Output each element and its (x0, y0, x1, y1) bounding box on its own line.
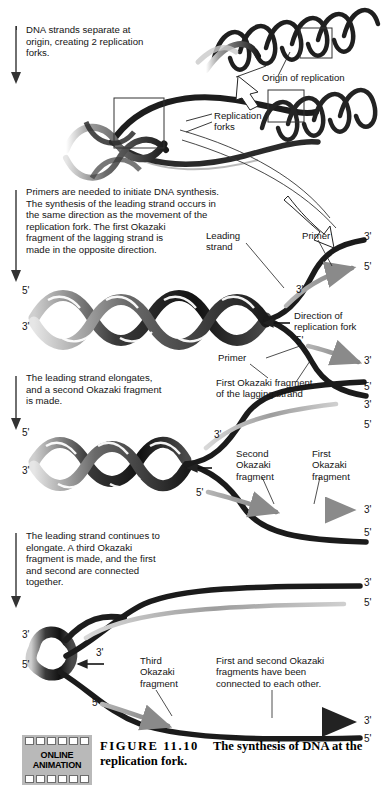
tick-p4-left-5: 5' (22, 660, 29, 670)
tick-p3-mid-3: 3' (214, 430, 221, 440)
step-text-3: The leading strand elongates, and a seco… (26, 372, 206, 407)
badge-line-1: ONLINE (33, 750, 82, 760)
tick-p2-left-5: 5' (22, 286, 29, 296)
figure-title-line2: replication fork. (100, 754, 187, 768)
label-second-okazaki-fragment: Second Okazaki fragment (236, 448, 274, 482)
tick-p2-bot-5: 5' (364, 382, 371, 392)
tick-p2-low-5: 5' (296, 336, 303, 346)
tick-p3-tr-3: 3' (364, 400, 371, 410)
tick-p3-bot-5: 5' (364, 528, 371, 538)
tick-p4-mid-3: 3' (96, 648, 103, 658)
tick-p4-frag-3: 3' (364, 716, 371, 726)
tick-p2-lr-3: 3' (364, 356, 371, 366)
tick-p2-left-3: 3' (22, 322, 29, 332)
tick-p4-left-3: 3' (22, 630, 29, 640)
step-text-4: The leading strand continues to elongate… (26, 530, 188, 588)
label-first-okazaki-lagging: First Okazaki fragment of the lagging st… (216, 377, 313, 400)
tick-p3-left-3: 3' (22, 466, 29, 476)
label-fragments-connected-note: First and second Okazaki fragments have … (216, 655, 324, 689)
label-leading-strand: Leading strand (206, 230, 240, 253)
tick-p2-fork-3: 3' (296, 285, 303, 295)
label-third-okazaki-fragment: Third Okazaki fragment (140, 655, 178, 689)
animation-badge-text: ONLINE ANIMATION (33, 750, 82, 770)
online-animation-badge[interactable]: ONLINE ANIMATION (22, 735, 92, 785)
figure-title: The synthesis of DNA at the (213, 739, 362, 753)
tick-p3-low-5: 5' (196, 488, 203, 498)
tick-p4-tr-3: 3' (364, 578, 371, 588)
label-direction-of-replication-fork: Direction of replication fork (294, 310, 356, 333)
label-primer-top: Primer (302, 230, 330, 241)
film-sprockets-top (25, 735, 89, 747)
step-rule-1 (16, 26, 17, 30)
tick-p3-tr-5: 5' (364, 420, 371, 430)
label-primer-bottom: Primer (218, 352, 246, 363)
step-arrow-2 (11, 190, 21, 282)
tick-p3-left-5: 5' (22, 428, 29, 438)
label-first-okazaki-fragment: First Okazaki fragment (312, 448, 350, 482)
caption-text: FIGURE 11.10The synthesis of DNA at the … (100, 739, 368, 769)
film-sprockets-bottom (25, 773, 89, 785)
step-text-1: DNA strands separate at origin, creating… (26, 24, 186, 59)
tick-p2-ur-5: 5' (364, 262, 371, 272)
label-replication-forks: Replication forks (214, 110, 261, 133)
figure-number: FIGURE 11.10 (100, 739, 199, 753)
tick-p4-low-5: 5' (92, 698, 99, 708)
step-arrow-3 (11, 376, 21, 430)
label-origin-of-replication: Origin of replication (262, 72, 345, 83)
figure-caption: ONLINE ANIMATION FIGURE 11.10The synthes… (16, 733, 371, 789)
step-arrow-1 (11, 26, 21, 84)
step-arrow-4 (11, 533, 21, 608)
badge-line-2: ANIMATION (33, 760, 82, 770)
dna-replication-figure: DNA strands separate at origin, creating… (0, 0, 381, 800)
tick-p3-frag-3: 3' (364, 505, 371, 515)
tick-p4-tr-5: 5' (364, 598, 371, 608)
tick-p2-ur-3: 3' (364, 232, 371, 242)
